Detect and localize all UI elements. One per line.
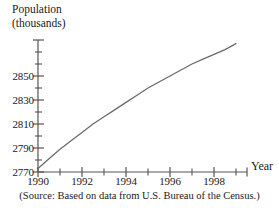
- x-axis-tick-label: 1998: [194, 176, 234, 187]
- y-axis-tick-label: 2850: [0, 71, 34, 82]
- y-axis-tick-label: 2830: [0, 95, 34, 106]
- x-axis-tick-label: 1994: [106, 176, 146, 187]
- y-axis-tick-label: 2810: [0, 119, 34, 130]
- x-axis-title: Year: [251, 160, 273, 172]
- x-axis-tick-label: 1992: [62, 176, 102, 187]
- population-data-curve: [38, 44, 236, 169]
- x-axis-tick-label: 1990: [18, 176, 58, 187]
- axes-group: [38, 40, 247, 172]
- source-note: (Source: Based on data from U.S. Bureau …: [0, 190, 279, 202]
- x-axis-tick-label: 1996: [150, 176, 190, 187]
- y-axis-tick-label: 2790: [0, 143, 34, 154]
- population-line-chart-figure: Population (thousands) 27702790281028302…: [0, 0, 279, 208]
